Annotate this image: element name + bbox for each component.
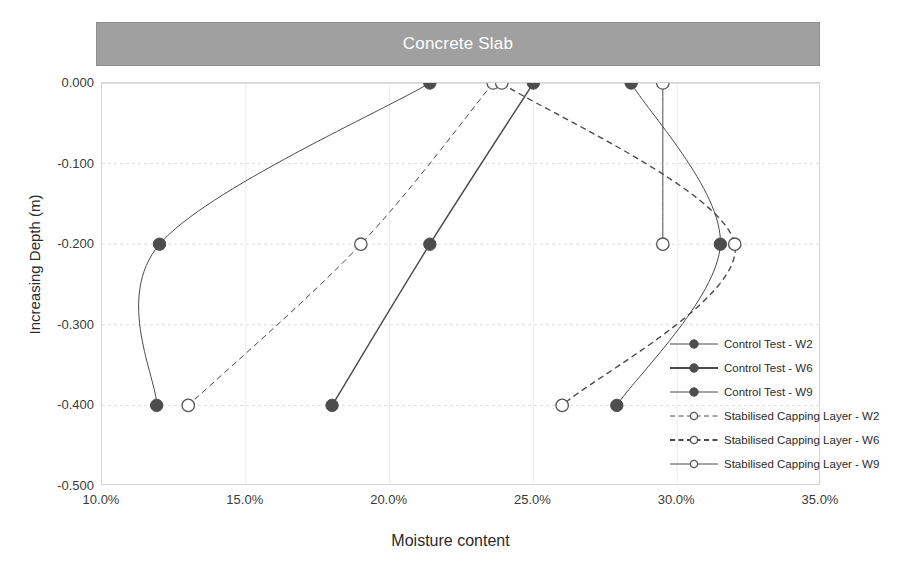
legend-item[interactable]: Stabilised Capping Layer - W9 [668,452,898,476]
series-1 [139,83,436,412]
legend-item-label: Stabilised Capping Layer - W2 [720,410,879,422]
legend-item-label: Control Test - W2 [720,338,813,350]
x-tick-label: 20.0% [370,492,407,507]
y-tick-label: -0.100 [36,155,94,170]
x-tick-label: 35.0% [802,492,839,507]
x-tick-label: 15.0% [226,492,263,507]
x-tick-label: 30.0% [658,492,695,507]
data-point-hollow [657,238,669,250]
legend-item[interactable]: Control Test - W6 [668,356,898,380]
data-point-hollow [355,238,367,250]
x-axis-title: Moisture content [0,532,901,550]
legend-key-icon [668,430,720,450]
y-tick-label: -0.200 [36,236,94,251]
data-point-filled [714,238,726,250]
concrete-slab-banner: Concrete Slab [96,22,820,66]
data-point-hollow [182,399,194,411]
legend-key-icon [668,406,720,426]
data-point-filled [424,83,436,89]
data-point-filled [150,399,162,411]
data-point-hollow [496,83,508,89]
moisture-depth-chart: Concrete Slab 0.000-0.100-0.200-0.300-0.… [0,0,901,583]
data-point-filled [625,83,637,89]
data-point-hollow [556,399,568,411]
data-point-filled [326,399,338,411]
data-point-filled [611,399,623,411]
legend-item[interactable]: Control Test - W2 [668,332,898,356]
data-point-hollow [657,83,669,89]
chart-legend: Control Test - W2Control Test - W6Contro… [668,332,898,476]
legend-item-label: Control Test - W6 [720,362,813,374]
legend-item[interactable]: Stabilised Capping Layer - W2 [668,404,898,428]
legend-key-icon [668,382,720,402]
legend-item-label: Stabilised Capping Layer - W9 [720,458,879,470]
legend-key-icon [668,454,720,474]
legend-key-icon [668,334,720,354]
data-point-filled [527,83,539,89]
data-point-filled [424,238,436,250]
y-tick-label: -0.300 [36,316,94,331]
legend-item[interactable]: Stabilised Capping Layer - W6 [668,428,898,452]
legend-item-label: Control Test - W9 [720,386,813,398]
y-axis-title: Increasing Depth (m) [26,145,43,385]
series-6 [657,83,669,250]
data-point-hollow [729,238,741,250]
legend-item[interactable]: Control Test - W9 [668,380,898,404]
x-tick-label: 25.0% [514,492,551,507]
series-4 [182,83,499,412]
y-tick-label: -0.500 [36,478,94,493]
legend-key-icon [668,358,720,378]
y-tick-label: -0.400 [36,397,94,412]
y-tick-label: 0.000 [36,75,94,90]
concrete-slab-label: Concrete Slab [403,34,513,54]
x-tick-label: 10.0% [83,492,120,507]
data-point-filled [153,238,165,250]
legend-item-label: Stabilised Capping Layer - W6 [720,434,879,446]
